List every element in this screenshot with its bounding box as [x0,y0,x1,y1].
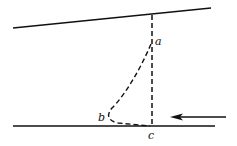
dashed-curve [109,44,151,126]
upper-boundary-line [13,8,211,28]
diagram-canvas: a b c [0,0,237,146]
flow-arrow [170,114,226,121]
label-b: b [98,111,105,124]
label-c: c [148,129,154,142]
label-a: a [155,35,162,48]
